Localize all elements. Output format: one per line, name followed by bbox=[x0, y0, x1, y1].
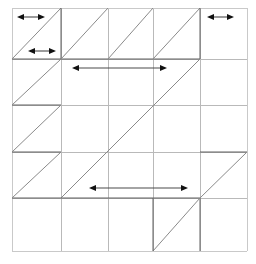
shape-diagonal-r4c5 bbox=[200, 152, 247, 198]
arrow-head-right bbox=[227, 14, 234, 20]
arrow-head-right bbox=[181, 185, 188, 191]
arrow-lower-long bbox=[89, 185, 188, 191]
figure-canvas bbox=[0, 0, 256, 264]
shape-diagonal-long bbox=[61, 59, 200, 198]
grid-diagram bbox=[0, 0, 256, 264]
arrow-head-left bbox=[72, 65, 79, 71]
arrow-top-right bbox=[207, 14, 234, 20]
arrow-top-left-lower bbox=[28, 48, 56, 54]
arrow-head-left bbox=[28, 48, 35, 54]
arrow-head-right bbox=[38, 14, 45, 20]
shape-diagonal-r5c4 bbox=[153, 198, 200, 251]
measure-arrows bbox=[17, 14, 234, 191]
arrow-head-right bbox=[49, 48, 56, 54]
shape-diagonal-r2 bbox=[12, 59, 61, 105]
shape-diagonal-r1c4 bbox=[153, 8, 200, 59]
arrow-top-left-upper bbox=[17, 14, 45, 20]
arrow-head-left bbox=[207, 14, 214, 20]
shape-diagonal-r4 bbox=[12, 152, 61, 198]
arrow-head-left bbox=[89, 185, 96, 191]
shape-diagonal-r1c2 bbox=[61, 8, 108, 59]
arrow-head-right bbox=[160, 65, 167, 71]
arrow-head-left bbox=[17, 14, 24, 20]
staircase-shapes bbox=[12, 8, 247, 251]
shape-diagonal-r3 bbox=[12, 105, 61, 152]
shape-diagonal-r1c3 bbox=[108, 8, 153, 59]
